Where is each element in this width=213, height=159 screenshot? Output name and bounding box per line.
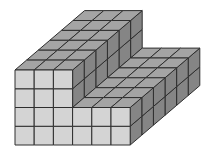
cube-structure-diagram (0, 0, 213, 159)
cube-front-face (34, 89, 53, 108)
cube-front-face (53, 108, 72, 127)
cube-front-face (73, 126, 92, 145)
cube-front-face (92, 126, 111, 145)
cube-front-face (15, 108, 34, 127)
cube-front-face (15, 70, 34, 89)
cube-front-face (73, 108, 92, 127)
cube-front-face (15, 89, 34, 108)
cube-front-face (34, 70, 53, 89)
figure-canvas: Oblique drawing of an L-shaped structure… (0, 0, 213, 159)
cube-front-face (34, 108, 53, 127)
cube-front-face (34, 126, 53, 145)
cube-front-face (53, 89, 72, 108)
cube-front-face (111, 126, 130, 145)
cube-front-face (111, 108, 130, 127)
cube-front-face (53, 70, 72, 89)
cube-front-face (15, 126, 34, 145)
cube-front-face (92, 108, 111, 127)
cube-front-face (53, 126, 72, 145)
